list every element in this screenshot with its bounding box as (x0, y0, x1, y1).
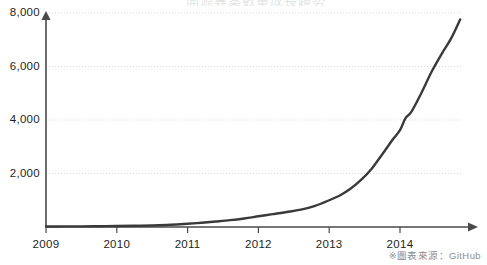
gridlines (46, 13, 462, 174)
x-axis-tick-label: 2010 (92, 238, 142, 250)
y-axis-tick-label: 8,000 (0, 6, 40, 18)
y-axis-tick-label: 4,000 (0, 113, 40, 125)
data-line-repositories (46, 19, 460, 226)
chart-figure: 開源專案數量成長趨勢 2,0004,0006,0008,000 20092010… (0, 0, 487, 265)
plot-area (0, 0, 487, 265)
y-axis-arrow-icon (41, 11, 50, 20)
x-axis-tick-label: 2012 (233, 238, 283, 250)
source-note: ※圖表來源：GitHub (389, 248, 481, 262)
x-axis-tick-label: 2009 (21, 238, 71, 250)
x-axis-ticks (46, 227, 400, 233)
x-axis-tick-label: 2013 (304, 238, 354, 250)
x-axis-tick-label: 2011 (163, 238, 213, 250)
y-axis-tick-label: 2,000 (0, 167, 40, 179)
axis-lines (41, 11, 478, 232)
x-axis-arrow-icon (468, 222, 478, 231)
y-axis-tick-label: 6,000 (0, 60, 40, 72)
